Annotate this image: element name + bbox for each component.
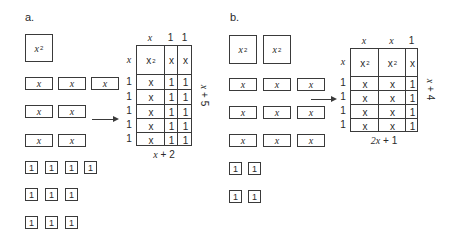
height-expression-label: x + 4 — [425, 72, 436, 108]
top-dimension-label: 1 — [177, 32, 193, 43]
grid-cell: x — [379, 119, 406, 133]
grid-cell: x — [137, 119, 165, 133]
grid-cell: x — [137, 90, 165, 105]
width-expression-label: x + 2 — [136, 149, 192, 160]
x-tile: x — [263, 78, 291, 91]
side-dimension-label: 1 — [124, 133, 134, 144]
x-tile: x — [91, 77, 119, 90]
side-dimension-label: 1 — [124, 105, 134, 116]
side-dimension-label: 1 — [338, 119, 348, 130]
algebra-tile-rectangle: x2x2xxx1xx1xx1xx1 — [350, 48, 418, 132]
grid-cell: 1 — [178, 119, 193, 133]
grid-cell: x2 — [379, 49, 406, 77]
unit-tile: 1 — [45, 161, 58, 174]
grid-cell: x2 — [351, 49, 379, 77]
unit-tile: 1 — [45, 216, 58, 229]
unit-tile: 1 — [65, 216, 78, 229]
grid-cell: x — [379, 105, 406, 119]
grid-cell: x — [165, 46, 178, 75]
side-dimension-label: 1 — [124, 76, 134, 87]
side-dimension-label: 1 — [338, 77, 348, 88]
grid-cell: 1 — [165, 75, 178, 90]
x-squared-tile: x2 — [263, 35, 291, 64]
unit-tile: 1 — [25, 188, 38, 201]
unit-tile: 1 — [84, 161, 97, 174]
top-dimension-label: 1 — [404, 35, 420, 46]
grid-cell: x — [351, 91, 379, 105]
top-dimension-label: x — [384, 35, 400, 46]
x-tile: x — [58, 77, 86, 90]
grid-cell: x — [351, 77, 379, 91]
side-dimension-label: x — [124, 54, 134, 65]
grid-cell: x — [406, 49, 419, 77]
x-tile: x — [25, 134, 53, 147]
side-dimension-label: 1 — [124, 91, 134, 102]
grid-cell: 1 — [406, 105, 419, 119]
grid-cell: x — [137, 133, 165, 147]
x-tile: x — [229, 134, 257, 147]
x-tile: x — [25, 105, 53, 118]
x-tile: x — [229, 106, 257, 119]
x-tile: x — [297, 134, 325, 147]
grid-cell: 1 — [165, 105, 178, 119]
grid-cell: x — [178, 46, 193, 75]
grid-cell: 1 — [406, 119, 419, 133]
top-dimension-label: x — [356, 35, 372, 46]
panel-a-label: a. — [25, 11, 34, 23]
top-dimension-label: x — [142, 32, 158, 43]
unit-tile: 1 — [45, 188, 58, 201]
x-tile: x — [297, 78, 325, 91]
x-squared-tile: x2 — [229, 35, 257, 64]
side-dimension-label: 1 — [124, 119, 134, 130]
x-tile: x — [58, 134, 86, 147]
side-dimension-label: 1 — [338, 105, 348, 116]
unit-tile: 1 — [65, 161, 78, 174]
grid-cell: x — [379, 91, 406, 105]
unit-tile: 1 — [229, 190, 242, 203]
grid-cell: 1 — [165, 119, 178, 133]
grid-cell: 1 — [178, 90, 193, 105]
arrow-icon — [92, 119, 117, 120]
tile-var: x — [35, 43, 39, 54]
grid-cell: 1 — [165, 90, 178, 105]
algebra-tile-rectangle: x2xxx11x11x11x11x11 — [136, 45, 192, 146]
grid-cell: 1 — [165, 133, 178, 147]
side-dimension-label: 1 — [338, 91, 348, 102]
grid-cell: 1 — [406, 77, 419, 91]
x-tile: x — [58, 105, 86, 118]
height-expression-label: x + 5 — [199, 77, 210, 113]
side-dimension-label: x — [338, 56, 348, 67]
panel-b-label: b. — [230, 11, 239, 23]
x-tile: x — [263, 134, 291, 147]
unit-tile: 1 — [25, 161, 38, 174]
x-tile: x — [25, 77, 53, 90]
tile-exp: 2 — [40, 45, 43, 51]
unit-tile: 1 — [229, 162, 242, 175]
grid-cell: x — [137, 75, 165, 90]
width-expression-label: 2x + 1 — [350, 135, 418, 146]
grid-cell: x — [351, 119, 379, 133]
x-tile: x — [263, 106, 291, 119]
unit-tile: 1 — [248, 190, 261, 203]
grid-cell: x — [379, 77, 406, 91]
grid-cell: 1 — [406, 91, 419, 105]
grid-cell: 1 — [178, 133, 193, 147]
unit-tile: 1 — [65, 188, 78, 201]
arrow-icon — [311, 99, 335, 100]
grid-cell: x — [351, 105, 379, 119]
grid-cell: x — [137, 105, 165, 119]
grid-cell: 1 — [178, 105, 193, 119]
grid-cell: 1 — [178, 75, 193, 90]
grid-cell: x2 — [137, 46, 165, 75]
unit-tile: 1 — [248, 162, 261, 175]
x-tile: x — [297, 106, 325, 119]
x-tile: x — [229, 78, 257, 91]
unit-tile: 1 — [25, 216, 38, 229]
x-squared-tile: x2 — [25, 34, 53, 62]
